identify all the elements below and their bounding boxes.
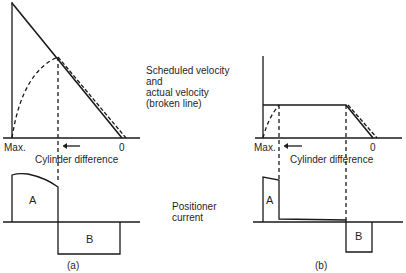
- velocity-legend-line-3: actual velocity: [146, 87, 209, 98]
- a-scheduled-velocity-line: [12, 3, 122, 138]
- b-region-a-label: A: [266, 195, 273, 206]
- b-region-b-label: B: [355, 231, 362, 242]
- b-arrow-head: [284, 144, 288, 149]
- b-actual-velocity-decel-dashed: [348, 105, 377, 138]
- b-caption: (b): [315, 260, 327, 271]
- a-caption: (a): [67, 260, 79, 271]
- b-max-label: Max.: [254, 142, 276, 153]
- velocity-legend-line-1: Scheduled velocity: [146, 65, 229, 76]
- velocity-legend-line-4: (broken line): [146, 98, 202, 109]
- velocity-legend-line-2: and: [146, 76, 163, 87]
- a-region-a-label: A: [29, 195, 36, 206]
- a-max-label: Max.: [4, 142, 26, 153]
- a-region-b-label: B: [86, 234, 93, 245]
- a-arrow-head: [63, 144, 67, 149]
- b-actual-velocity-accel-dashed: [263, 105, 279, 138]
- a-current-waveform: [12, 174, 120, 254]
- b-x-axis-title: Cylinder difference: [290, 154, 373, 165]
- b-zero-label: 0: [370, 142, 376, 153]
- a-actual-velocity-accel-dashed: [12, 57, 58, 138]
- a-zero-label: 0: [119, 142, 125, 153]
- current-legend-line-1: Positioner: [172, 201, 216, 212]
- current-legend-line-2: current: [172, 212, 203, 223]
- diagram-canvas: [0, 0, 406, 273]
- a-actual-velocity-decel-dashed: [58, 57, 126, 138]
- a-x-axis-title: Cylinder difference: [35, 154, 118, 165]
